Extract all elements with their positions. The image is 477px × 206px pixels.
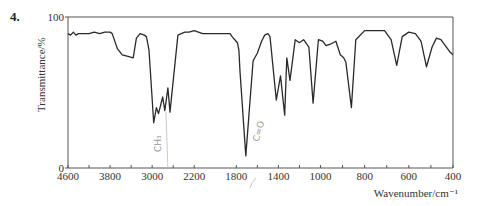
annotation-co: C=O: [251, 120, 266, 143]
x-tick-label: 2200: [183, 170, 206, 182]
x-tick-label: 600: [401, 170, 418, 182]
annotations: CH₃C=O: [153, 112, 266, 188]
x-tick-label: 400: [445, 170, 462, 182]
y-axis-label: Transmittance/%: [35, 37, 47, 112]
x-tick-label: 3800: [99, 170, 122, 182]
x-tick-label: 1000: [309, 170, 332, 182]
axes: 4600380030002200180014001000800600400010…: [48, 11, 462, 182]
pencil-mark: [250, 178, 256, 188]
question-number: 4.: [10, 9, 20, 24]
y-tick-label: 100: [48, 11, 65, 23]
x-tick-label: 3000: [141, 170, 164, 182]
ir-spectrum-chart: 4. 4600380030002200180014001000800600400…: [0, 0, 477, 206]
y-tick-label: 0: [59, 162, 65, 174]
pencil-mark: [166, 112, 168, 168]
annotation-ch3: CH₃: [153, 135, 163, 152]
x-axis-label: Wavenumber/cm⁻¹: [374, 187, 458, 199]
x-tick-label: 1400: [267, 170, 290, 182]
x-tick-label: 1800: [225, 170, 248, 182]
x-tick-label: 800: [356, 170, 373, 182]
